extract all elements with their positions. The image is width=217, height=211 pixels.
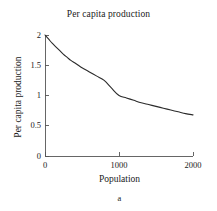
plot-area: [0, 0, 217, 211]
figure-panel: Per capita production Per capita product…: [0, 0, 217, 211]
series-line-per-capita-production: [45, 35, 193, 115]
data-series: [45, 35, 193, 115]
